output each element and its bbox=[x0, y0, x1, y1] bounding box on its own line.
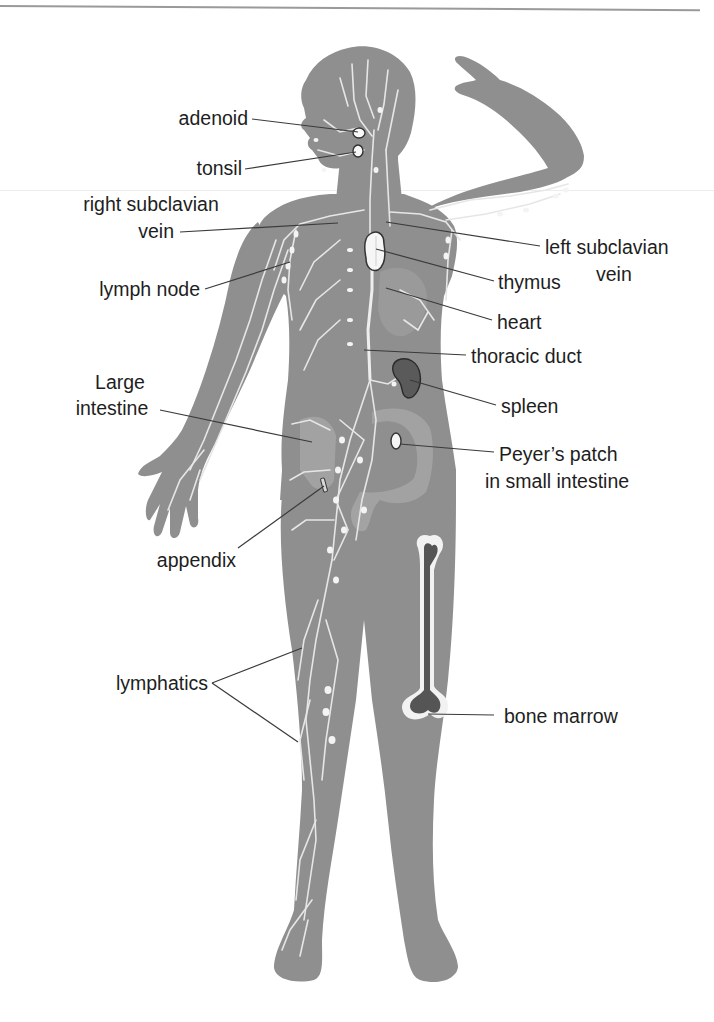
label-spleen: spleen bbox=[501, 394, 558, 418]
label-left-subclavian-vein-line1: left subclavian bbox=[545, 235, 669, 259]
label-lymphatics: lymphatics bbox=[80, 671, 208, 695]
label-large-intestine-line2: intestine bbox=[62, 396, 162, 420]
thymus-organ bbox=[365, 232, 385, 270]
label-large-intestine-line1: Large bbox=[70, 370, 170, 394]
label-left-subclavian-vein-line2: vein bbox=[596, 262, 632, 286]
adenoid-organ bbox=[353, 128, 365, 138]
label-adenoid: adenoid bbox=[160, 106, 248, 130]
label-right-subclavian-vein-line2: vein bbox=[110, 219, 174, 243]
label-thoracic-duct: thoracic duct bbox=[471, 344, 582, 368]
label-appendix: appendix bbox=[120, 548, 236, 572]
lymphatic-system-diagram: adenoid tonsil right subclavian vein lym… bbox=[0, 0, 714, 1022]
peyers-patch-organ bbox=[391, 433, 401, 449]
tonsil-organ bbox=[353, 145, 363, 157]
body-illustration bbox=[0, 0, 714, 1022]
label-heart: heart bbox=[497, 310, 541, 334]
label-thymus: thymus bbox=[498, 270, 561, 294]
label-peyers-patch-line2: in small intestine bbox=[485, 469, 629, 493]
label-peyers-patch-line1: Peyer’s patch bbox=[499, 442, 618, 466]
label-bone-marrow: bone marrow bbox=[504, 704, 618, 728]
label-tonsil: tonsil bbox=[180, 156, 242, 180]
label-lymph-node: lymph node bbox=[70, 277, 200, 301]
label-right-subclavian-vein-line1: right subclavian bbox=[68, 192, 234, 216]
